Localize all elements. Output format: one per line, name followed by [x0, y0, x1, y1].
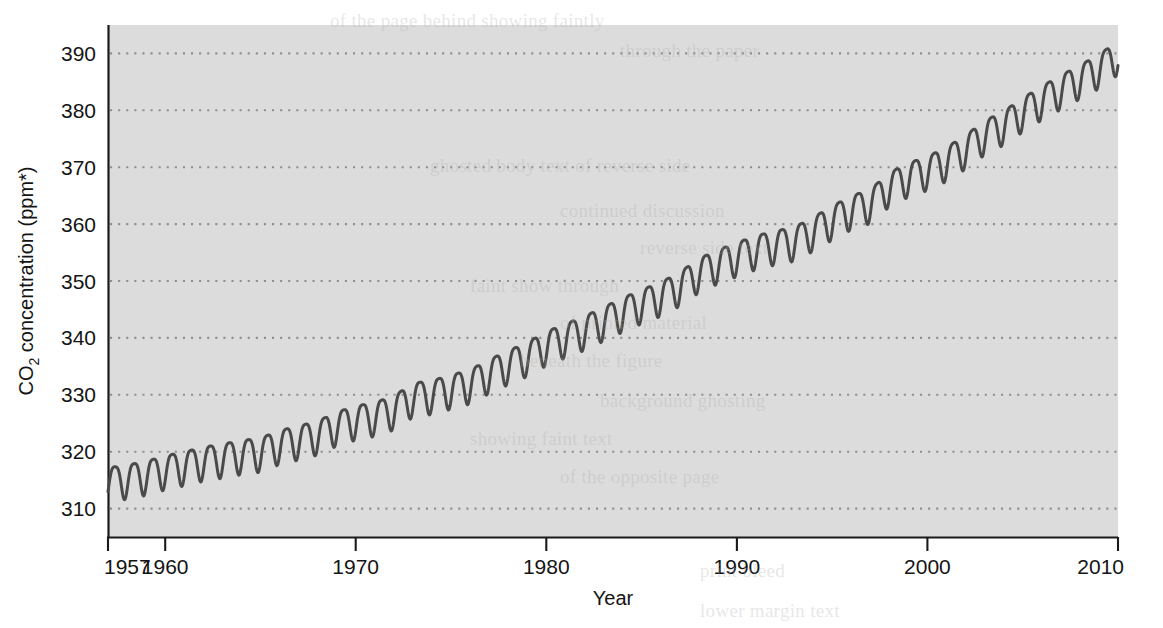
x-axis-title: Year [593, 587, 634, 609]
keeling-curve-chart: 310320330340350360370380390 195719601970… [0, 0, 1163, 628]
y-tick-label-330: 330 [61, 383, 96, 406]
co2-concentration-figure: 310320330340350360370380390 195719601970… [0, 0, 1163, 628]
y-tick-label-350: 350 [61, 270, 96, 293]
y-axis-tick-labels: 310320330340350360370380390 [61, 42, 96, 520]
svg-text:CO2 concentration (ppm*): CO2 concentration (ppm*) [15, 167, 42, 396]
y-tick-label-370: 370 [61, 156, 96, 179]
y-axis-title: CO2 concentration (ppm*) [15, 167, 42, 396]
y-tick-label-390: 390 [61, 42, 96, 65]
y-tick-label-310: 310 [61, 497, 96, 520]
y-tick-label-360: 360 [61, 213, 96, 236]
y-tick-label-320: 320 [61, 440, 96, 463]
y-axis-title-subscript: 2 [26, 358, 42, 366]
x-axis-ticks [108, 537, 1118, 551]
x-tick-label-2000: 2000 [904, 555, 951, 578]
y-axis-title-prefix: CO [15, 366, 37, 396]
x-tick-label-1990: 1990 [714, 555, 761, 578]
x-axis-tick-labels: 1957196019701980199020002010 [104, 555, 1124, 578]
y-tick-label-340: 340 [61, 326, 96, 349]
x-tick-label-1980: 1980 [523, 555, 570, 578]
y-axis-title-suffix: concentration (ppm*) [15, 167, 37, 358]
y-tick-label-380: 380 [61, 99, 96, 122]
x-tick-label-1970: 1970 [332, 555, 379, 578]
x-tick-label-1960: 1960 [142, 555, 189, 578]
x-tick-label-2010: 2010 [1077, 555, 1124, 578]
